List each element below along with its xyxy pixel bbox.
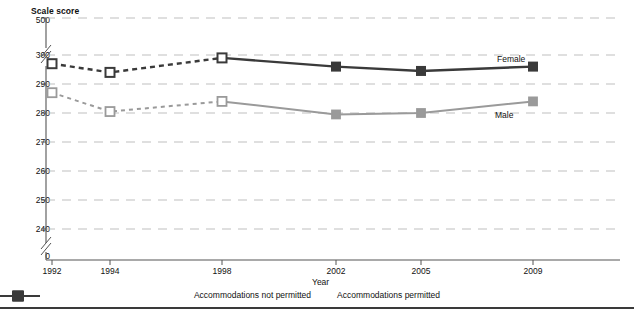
data-point-marker	[48, 88, 57, 97]
data-point-marker	[417, 109, 425, 117]
legend-label-accommodations-permitted: Accommodations permitted	[337, 290, 440, 300]
y-tick-marks	[41, 18, 46, 229]
data-point-marker	[106, 68, 115, 77]
legend-label-accommodations-not-permitted: Accommodations not permitted	[194, 290, 311, 300]
legend-item-accommodations-permitted[interactable]: Accommodations permitted	[337, 290, 440, 300]
axis-lines	[41, 18, 620, 260]
bottom-divider	[0, 307, 634, 309]
data-point-marker	[332, 110, 340, 118]
series-line-dashed-male	[52, 93, 222, 112]
data-point-marker	[529, 63, 537, 71]
data-point-marker	[529, 97, 537, 105]
data-point-marker	[218, 97, 227, 106]
data-point-marker	[417, 67, 425, 75]
chart-container: Scale score 500 300 290 280 270 260 250 …	[0, 0, 634, 315]
plot-area	[0, 0, 634, 315]
series-line-dashed-female	[52, 58, 222, 73]
x-tick-marks	[52, 260, 533, 265]
chart-legend: Accommodations not permitted Accommodati…	[0, 290, 634, 300]
series-line-solid-male	[222, 101, 533, 114]
series-label-female: Female	[497, 54, 525, 64]
data-series-layer	[48, 53, 538, 118]
gridlines	[46, 18, 620, 229]
data-point-marker	[106, 107, 115, 116]
legend-item-accommodations-not-permitted[interactable]: Accommodations not permitted	[194, 290, 311, 300]
series-line-solid-female	[222, 58, 533, 71]
data-point-marker	[48, 59, 57, 68]
data-point-marker	[332, 63, 340, 71]
data-point-marker	[218, 53, 227, 62]
legend-swatch-solid-filled-square-icon	[0, 290, 40, 302]
series-label-male: Male	[495, 110, 513, 120]
